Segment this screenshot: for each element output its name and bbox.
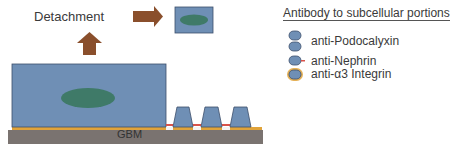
basal-integrin-cell-icon bbox=[287, 68, 303, 81]
legend-title: Antibody to subcellular portions bbox=[283, 6, 450, 21]
legend-item-podocalyxin: anti-Podocalyxin bbox=[311, 34, 399, 48]
apical-cell-icon bbox=[289, 31, 301, 51]
legend-item-integrin: anti-α3 Integrin bbox=[311, 67, 391, 81]
podocyte-cell bbox=[12, 64, 166, 127]
slit-diaphragm-cell-icon bbox=[289, 56, 305, 65]
detachment-label: Detachment bbox=[34, 9, 104, 24]
legend-item-nephrin: anti-Nephrin bbox=[311, 54, 376, 68]
gbm-label: GBM bbox=[117, 128, 142, 140]
detached-cell bbox=[175, 7, 213, 33]
arrow-up-icon bbox=[77, 32, 102, 55]
nucleus bbox=[61, 88, 115, 108]
arrow-right-icon bbox=[133, 6, 163, 27]
foot-processes bbox=[173, 107, 251, 127]
